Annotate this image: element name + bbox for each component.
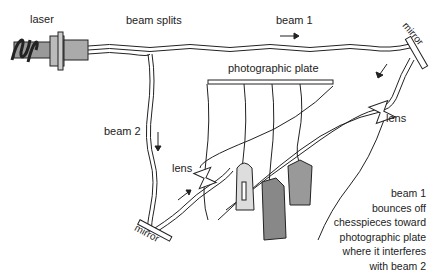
caption-line: chesspieces toward [334,215,426,230]
label-beam-splits: beam splits [126,14,182,26]
label-laser: laser [30,13,54,25]
laser-device [12,32,88,70]
label-beam-2: beam 2 [104,125,141,137]
caption-line: bounces off [334,201,426,216]
lens-left [194,167,216,188]
chesspieces [236,160,312,240]
caption-line: beam 1 [334,186,426,201]
beam-1-path [88,44,410,56]
caption: beam 1 bounces off chesspieces toward ph… [334,186,426,273]
caption-line: where it interferes [334,244,426,259]
label-photographic-plate: photographic plate [228,62,319,74]
label-lens-right: lens [386,112,406,124]
photographic-plate [208,80,333,84]
label-lens-left: lens [172,162,192,174]
caption-line: with beam 2 [334,259,426,273]
label-beam-1: beam 1 [276,14,313,26]
caption-line: photographic plate [334,230,426,245]
